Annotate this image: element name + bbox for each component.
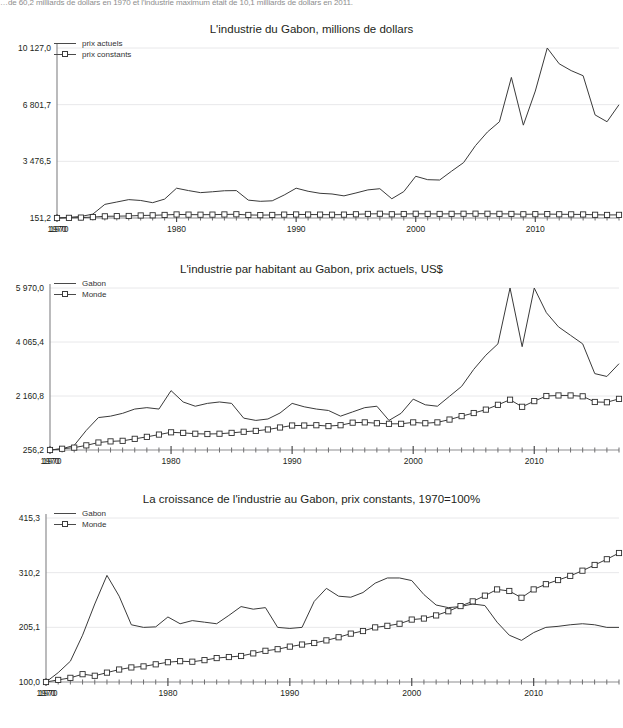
series-marker xyxy=(616,212,621,217)
series-marker xyxy=(569,212,574,217)
series-marker xyxy=(592,212,597,217)
series-marker xyxy=(253,428,258,433)
series-marker xyxy=(604,400,609,405)
series-marker xyxy=(246,212,251,217)
series-marker xyxy=(497,211,502,216)
series-marker xyxy=(186,212,191,217)
series-marker xyxy=(446,609,451,614)
series-marker xyxy=(294,212,299,217)
series-marker xyxy=(314,423,319,428)
legend-item-gabon: Gabon xyxy=(52,278,106,289)
series-marker xyxy=(132,436,137,441)
series-marker xyxy=(150,213,155,218)
series-marker xyxy=(544,393,549,398)
legend-item-prix-actuels: prix actuels xyxy=(52,38,131,49)
series-marker xyxy=(435,420,440,425)
series-marker xyxy=(198,212,203,217)
series-marker xyxy=(423,421,428,426)
series-marker xyxy=(265,427,270,432)
series-marker xyxy=(126,213,131,218)
series-marker xyxy=(447,417,452,422)
series-marker xyxy=(411,420,416,425)
line-square-marker-swatch-icon xyxy=(52,289,78,300)
series-marker xyxy=(210,212,215,217)
series-marker xyxy=(102,214,107,219)
series-marker xyxy=(531,587,536,592)
series-marker xyxy=(557,212,562,217)
legend-label: Monde xyxy=(82,519,106,530)
series-line-prix-actuels xyxy=(57,48,619,218)
series-marker xyxy=(616,396,621,401)
series-marker xyxy=(178,659,183,664)
series-marker xyxy=(580,568,585,573)
series-marker xyxy=(494,587,499,592)
series-marker xyxy=(533,212,538,217)
x-tick-label: 1990 xyxy=(283,456,302,466)
series-marker xyxy=(616,550,621,555)
series-marker xyxy=(365,211,370,216)
series-marker xyxy=(174,212,179,217)
legend-label: Gabon xyxy=(82,508,106,519)
y-tick-label: 3 476,5 xyxy=(23,156,52,166)
x-tick-label: 2010 xyxy=(526,224,545,234)
line-square-marker-swatch-icon xyxy=(52,49,78,60)
y-tick-label: 100,0 xyxy=(19,677,41,687)
legend-label: prix actuels xyxy=(82,38,122,49)
chart-industrie-millions: L'industrie du Gabon, millions de dollar… xyxy=(0,22,623,262)
x-tick-label: 1980 xyxy=(162,456,181,466)
series-marker xyxy=(348,631,353,636)
x-tick-label: 1990 xyxy=(280,688,299,698)
x-tick-label: 1970 xyxy=(50,224,69,234)
legend-item-monde: Monde xyxy=(52,519,106,530)
series-marker xyxy=(470,599,475,604)
y-tick-label: 256,2 xyxy=(23,445,45,455)
series-marker xyxy=(520,404,525,409)
series-marker xyxy=(386,421,391,426)
series-marker xyxy=(80,672,85,677)
series-marker xyxy=(592,399,597,404)
series-marker xyxy=(92,673,97,678)
series-marker xyxy=(202,658,207,663)
series-marker xyxy=(398,421,403,426)
series-marker xyxy=(397,621,402,626)
series-marker xyxy=(385,623,390,628)
series-marker xyxy=(555,577,560,582)
legend-label: Gabon xyxy=(82,278,106,289)
x-tick-label: 1990 xyxy=(287,224,306,234)
series-marker xyxy=(353,212,358,217)
legend-label: Monde xyxy=(82,289,106,300)
series-marker xyxy=(68,675,73,680)
series-marker xyxy=(471,410,476,415)
series-marker xyxy=(362,420,367,425)
series-marker xyxy=(581,212,586,217)
series-marker xyxy=(238,653,243,658)
chart-croissance-industrie: La croissance de l'industrie au Gabon, p… xyxy=(0,492,623,728)
line-swatch-icon xyxy=(52,278,78,289)
series-marker xyxy=(96,440,101,445)
series-marker xyxy=(299,642,304,647)
series-marker xyxy=(306,212,311,217)
series-marker xyxy=(275,647,280,652)
series-marker xyxy=(545,212,550,217)
series-marker xyxy=(282,212,287,217)
series-marker xyxy=(604,212,609,217)
chart-industrie-par-habitant: L'industrie par habitant au Gabon, prix … xyxy=(0,262,623,492)
series-marker xyxy=(374,421,379,426)
series-marker xyxy=(287,644,292,649)
x-tick-label: 2000 xyxy=(404,456,423,466)
series-marker xyxy=(290,423,295,428)
series-marker xyxy=(421,616,426,621)
chart2-legend: Gabon Monde xyxy=(52,278,106,300)
y-tick-label: 151,2 xyxy=(30,213,52,223)
series-marker xyxy=(312,640,317,645)
series-marker xyxy=(234,212,239,217)
series-marker xyxy=(277,425,282,430)
series-marker xyxy=(604,557,609,562)
series-marker xyxy=(483,407,488,412)
series-marker xyxy=(258,213,263,218)
series-marker xyxy=(56,677,61,682)
series-marker xyxy=(519,595,524,600)
series-marker xyxy=(507,397,512,402)
y-tick-label: 4 065,4 xyxy=(16,337,45,347)
series-marker xyxy=(543,582,548,587)
